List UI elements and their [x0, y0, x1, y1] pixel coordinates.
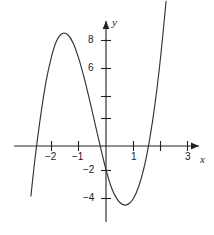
y-axis-name-label: y: [112, 17, 117, 28]
graph-figure: −2 −1 1 3 8 6 −2 −4 x y: [0, 0, 214, 235]
y-tick-label--2: −2: [83, 165, 94, 175]
x-tick-label--1: −1: [72, 152, 83, 162]
y-tick-label-8: 8: [88, 35, 94, 45]
cubic-curve: [31, 1, 166, 205]
y-tick-label-6: 6: [88, 63, 94, 73]
x-axis-arrow-icon: [191, 143, 199, 150]
x-tick-label-3: 3: [185, 152, 191, 162]
x-axis-name-label: x: [200, 154, 205, 165]
x-tick-label-1: 1: [131, 152, 137, 162]
cubic-graph-plot: [0, 0, 214, 235]
y-axis-arrow-icon: [103, 21, 110, 29]
y-axis-group: [101, 21, 111, 222]
y-tick-label--4: −4: [83, 193, 94, 203]
x-tick-label--2: −2: [45, 152, 56, 162]
